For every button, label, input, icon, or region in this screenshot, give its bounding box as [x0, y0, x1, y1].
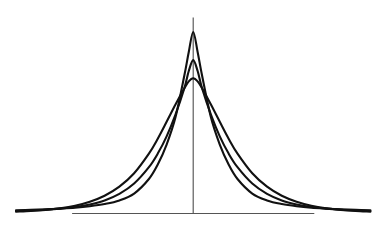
figure-root	[0, 0, 390, 234]
distribution-curves-chart	[0, 0, 390, 234]
